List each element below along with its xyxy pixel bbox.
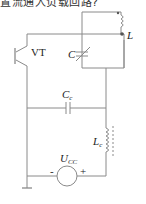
tank-inductor-icon: [121, 12, 123, 34]
transistor-label: VT: [31, 46, 46, 58]
supply-label: UCC: [60, 152, 78, 166]
circuit-figure: 置流通入负载回路?: [0, 0, 146, 204]
supply-source-icon: [57, 166, 77, 186]
variable-arrow-icon: [76, 47, 90, 61]
choke-inductor-icon: [106, 128, 109, 176]
emitter-wire: [16, 60, 27, 188]
supply-plus: +: [80, 165, 86, 177]
choke-inductor-label: Lc: [92, 135, 103, 149]
tank-inductor-label: L: [126, 29, 133, 41]
circuit-diagram: L VT C Cc Lc UCC - +: [0, 0, 146, 204]
tank-capacitor-label: C: [68, 48, 76, 60]
supply-minus: -: [50, 165, 54, 177]
collector-wire: [16, 34, 27, 52]
dot-terminal-icon: [120, 32, 124, 36]
tank-box-wire: [82, 12, 124, 68]
coupling-capacitor-icon: [66, 102, 70, 114]
coupling-capacitor-label: Cc: [62, 88, 73, 102]
